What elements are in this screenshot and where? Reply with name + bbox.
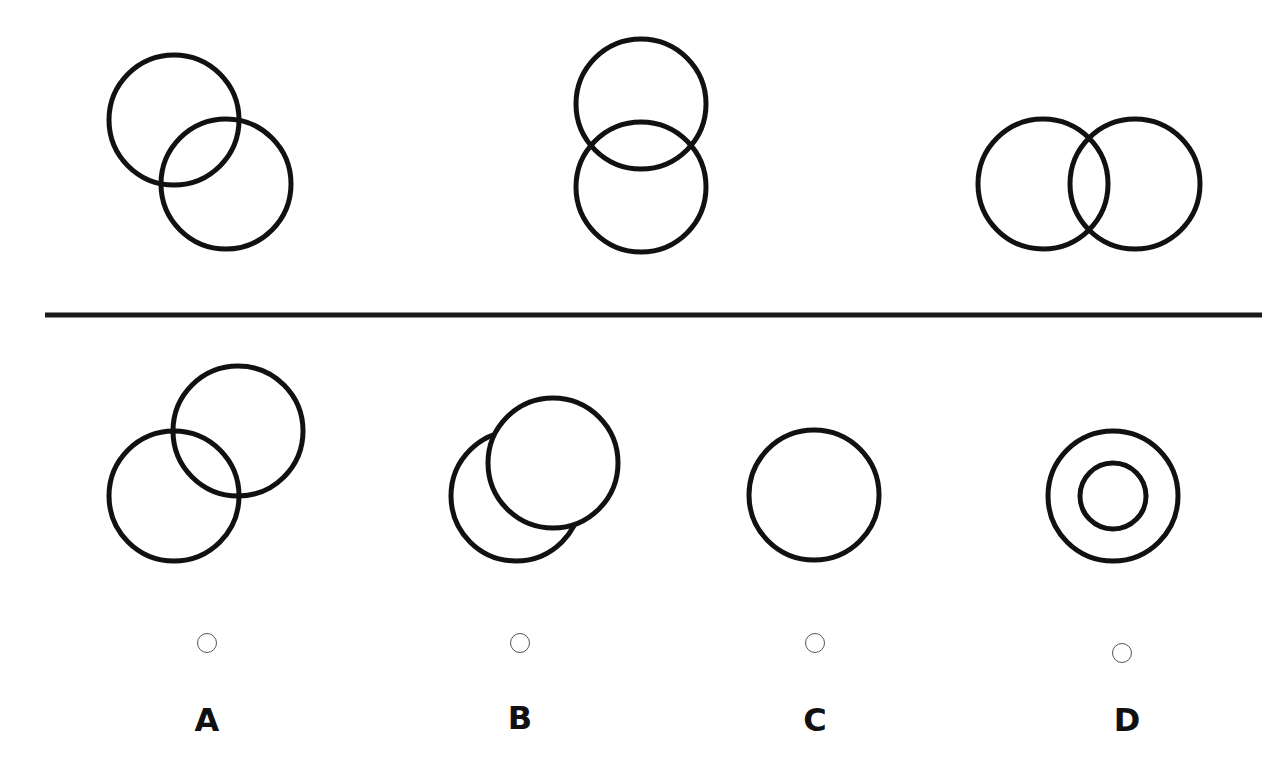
option-label-b: B xyxy=(490,698,550,738)
puzzle-canvas: A B C D xyxy=(0,0,1284,760)
option-label-a: A xyxy=(177,700,237,740)
circle-icon xyxy=(1070,119,1200,249)
circle-icon xyxy=(749,430,879,560)
circle-icon xyxy=(1048,431,1178,561)
radio-option-b[interactable] xyxy=(510,633,530,653)
radio-option-c[interactable] xyxy=(805,633,825,653)
radio-option-a[interactable] xyxy=(197,633,217,653)
circle-icon xyxy=(488,398,618,528)
question-figure-3 xyxy=(978,119,1200,249)
option-figure-a xyxy=(109,366,303,561)
radio-option-d[interactable] xyxy=(1112,643,1132,663)
option-label-c: C xyxy=(785,700,845,740)
circle-icon xyxy=(576,39,706,169)
option-figure-c xyxy=(749,430,879,560)
circle-icon xyxy=(576,122,706,252)
option-label-d: D xyxy=(1097,700,1157,740)
question-figure-1 xyxy=(109,55,291,249)
question-figure-2 xyxy=(576,39,706,252)
option-figure-b xyxy=(451,398,618,561)
option-figure-d xyxy=(1048,431,1178,561)
circle-icon xyxy=(1080,463,1146,529)
